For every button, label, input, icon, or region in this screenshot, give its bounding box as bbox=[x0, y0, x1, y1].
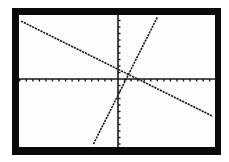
graph-plot bbox=[19, 15, 215, 147]
calculator-screen-bezel bbox=[12, 8, 221, 155]
axes bbox=[19, 15, 215, 147]
line-2 bbox=[93, 17, 157, 144]
line-1 bbox=[21, 21, 213, 116]
graph-screen bbox=[19, 15, 215, 147]
